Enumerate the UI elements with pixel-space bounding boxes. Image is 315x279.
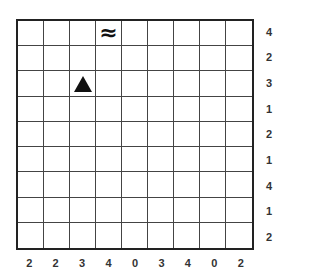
grid-cell-r1-c0[interactable] — [18, 46, 44, 71]
grid-cell-r8-c6[interactable] — [174, 223, 200, 248]
grid-cell-r0-c5[interactable] — [148, 21, 174, 46]
grid-cell-r3-c1[interactable] — [44, 97, 70, 122]
grid-cell-r0-c4[interactable] — [122, 21, 148, 46]
grid-cell-r6-c3[interactable] — [96, 172, 122, 197]
grid-cell-r8-c3[interactable] — [96, 223, 122, 248]
grid-cell-r4-c3[interactable] — [96, 122, 122, 147]
grid-cell-r1-c2[interactable] — [70, 46, 96, 71]
grid-cell-r2-c7[interactable] — [200, 71, 226, 96]
grid-cell-r2-c1[interactable] — [44, 71, 70, 96]
grid-cell-r3-c0[interactable] — [18, 97, 44, 122]
grid-cell-r0-c6[interactable] — [174, 21, 200, 46]
grid-cell-r7-c8[interactable] — [226, 198, 252, 223]
grid-cell-r3-c7[interactable] — [200, 97, 226, 122]
triangle-icon — [74, 76, 92, 92]
grid-cell-r0-c7[interactable] — [200, 21, 226, 46]
column-clue-6: 4 — [175, 252, 201, 274]
grid-cell-r0-c0[interactable] — [18, 21, 44, 46]
grid-cell-r3-c8[interactable] — [226, 97, 252, 122]
grid-cell-r8-c1[interactable] — [44, 223, 70, 248]
grid-cell-r4-c7[interactable] — [200, 122, 226, 147]
grid-cell-r5-c6[interactable] — [174, 147, 200, 172]
grid-cell-r4-c6[interactable] — [174, 122, 200, 147]
grid-cell-r7-c6[interactable] — [174, 198, 200, 223]
grid-cell-r1-c8[interactable] — [226, 46, 252, 71]
row-clue-8: 2 — [260, 224, 290, 250]
grid-cell-r6-c4[interactable] — [122, 172, 148, 197]
grid-cell-r2-c6[interactable] — [174, 71, 200, 96]
grid-cell-r8-c5[interactable] — [148, 223, 174, 248]
grid-cell-r8-c8[interactable] — [226, 223, 252, 248]
row-clue-5: 1 — [260, 147, 290, 173]
grid-cell-r5-c2[interactable] — [70, 147, 96, 172]
column-clue-2: 3 — [69, 252, 95, 274]
grid-cell-r8-c7[interactable] — [200, 223, 226, 248]
row-clue-2: 3 — [260, 70, 290, 96]
grid-cell-r1-c7[interactable] — [200, 46, 226, 71]
grid-cell-r6-c5[interactable] — [148, 172, 174, 197]
grid-cell-r4-c5[interactable] — [148, 122, 174, 147]
grid-cell-r2-c0[interactable] — [18, 71, 44, 96]
grid-cell-r5-c7[interactable] — [200, 147, 226, 172]
grid-cell-r6-c7[interactable] — [200, 172, 226, 197]
grid-cell-r6-c2[interactable] — [70, 172, 96, 197]
grid-cell-r0-c2[interactable] — [70, 21, 96, 46]
row-clue-1: 2 — [260, 45, 290, 71]
column-clues: 223403402 — [16, 252, 254, 274]
grid-cell-r7-c4[interactable] — [122, 198, 148, 223]
column-clue-7: 0 — [201, 252, 227, 274]
column-clue-4: 0 — [122, 252, 148, 274]
grid-cell-r2-c8[interactable] — [226, 71, 252, 96]
grid-cell-r1-c4[interactable] — [122, 46, 148, 71]
grid-cell-r5-c1[interactable] — [44, 147, 70, 172]
grid-cell-r4-c0[interactable] — [18, 122, 44, 147]
grid-cell-r5-c5[interactable] — [148, 147, 174, 172]
grid-cell-r8-c0[interactable] — [18, 223, 44, 248]
water-wave-icon: ≈ — [99, 22, 117, 44]
grid-cell-r2-c2[interactable] — [70, 71, 96, 96]
grid-cell-r7-c1[interactable] — [44, 198, 70, 223]
puzzle-grid: ≈ — [16, 19, 254, 250]
grid-cell-r8-c2[interactable] — [70, 223, 96, 248]
grid-cell-r1-c6[interactable] — [174, 46, 200, 71]
grid-cell-r6-c8[interactable] — [226, 172, 252, 197]
row-clue-7: 1 — [260, 199, 290, 225]
column-clue-5: 3 — [148, 252, 174, 274]
grid-cell-r3-c4[interactable] — [122, 97, 148, 122]
grid-cell-r4-c4[interactable] — [122, 122, 148, 147]
grid-cell-r5-c3[interactable] — [96, 147, 122, 172]
grid-cell-r1-c3[interactable] — [96, 46, 122, 71]
grid-cell-r6-c0[interactable] — [18, 172, 44, 197]
grid-cell-r7-c3[interactable] — [96, 198, 122, 223]
row-clue-6: 4 — [260, 173, 290, 199]
grid-cell-r3-c2[interactable] — [70, 97, 96, 122]
grid-cell-r5-c8[interactable] — [226, 147, 252, 172]
grid-cell-r2-c3[interactable] — [96, 71, 122, 96]
grid-cell-r8-c4[interactable] — [122, 223, 148, 248]
grid-cell-r2-c5[interactable] — [148, 71, 174, 96]
row-clue-4: 2 — [260, 122, 290, 148]
grid-cell-r3-c6[interactable] — [174, 97, 200, 122]
grid-cell-r3-c3[interactable] — [96, 97, 122, 122]
grid-cell-r0-c8[interactable] — [226, 21, 252, 46]
grid-cell-r5-c0[interactable] — [18, 147, 44, 172]
grid-cell-r3-c5[interactable] — [148, 97, 174, 122]
row-clue-0: 4 — [260, 19, 290, 45]
grid-cell-r4-c8[interactable] — [226, 122, 252, 147]
grid-cell-r0-c3[interactable]: ≈ — [96, 21, 122, 46]
grid-cell-r6-c6[interactable] — [174, 172, 200, 197]
grid-cell-r5-c4[interactable] — [122, 147, 148, 172]
column-clue-1: 2 — [42, 252, 68, 274]
grid-cell-r0-c1[interactable] — [44, 21, 70, 46]
grid-cell-r7-c7[interactable] — [200, 198, 226, 223]
grid-cell-r4-c2[interactable] — [70, 122, 96, 147]
grid-cell-r7-c5[interactable] — [148, 198, 174, 223]
grid-cell-r4-c1[interactable] — [44, 122, 70, 147]
grid-cell-r6-c1[interactable] — [44, 172, 70, 197]
grid-cell-r1-c5[interactable] — [148, 46, 174, 71]
grid-cell-r7-c2[interactable] — [70, 198, 96, 223]
grid-cell-r1-c1[interactable] — [44, 46, 70, 71]
grid-cell-r7-c0[interactable] — [18, 198, 44, 223]
row-clue-3: 1 — [260, 96, 290, 122]
grid-cell-r2-c4[interactable] — [122, 71, 148, 96]
